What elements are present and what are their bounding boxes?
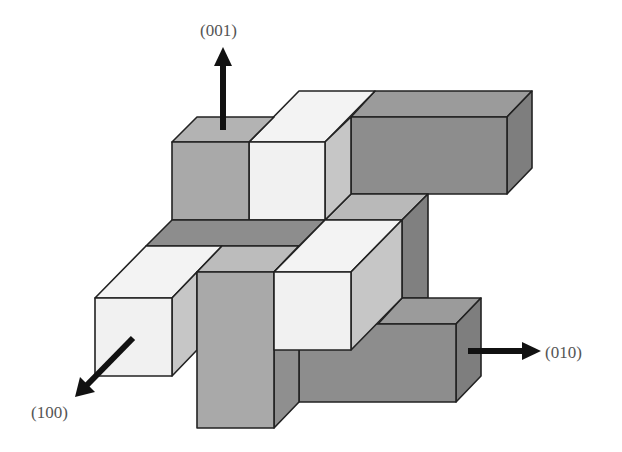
top-white-block-front-face bbox=[249, 142, 325, 220]
block-structure-diagram: (001) (010) (100) bbox=[0, 0, 622, 452]
arrow-001-head-icon bbox=[214, 47, 232, 66]
top-dark-bar bbox=[351, 91, 532, 194]
middle-dark-band bbox=[146, 220, 325, 246]
label-001: (001) bbox=[200, 21, 237, 40]
label-100: (100) bbox=[31, 403, 68, 422]
label-010: (010) bbox=[545, 343, 582, 362]
top-dark-bar-front-face bbox=[351, 117, 507, 194]
top-dark-bar-top-face bbox=[351, 91, 532, 117]
front-grey-pillar-front-face bbox=[197, 272, 274, 428]
middle-white-cube-front-face bbox=[274, 272, 351, 350]
arrow-010-head-icon bbox=[522, 342, 541, 360]
top-grey-cube-front-face bbox=[172, 142, 249, 220]
